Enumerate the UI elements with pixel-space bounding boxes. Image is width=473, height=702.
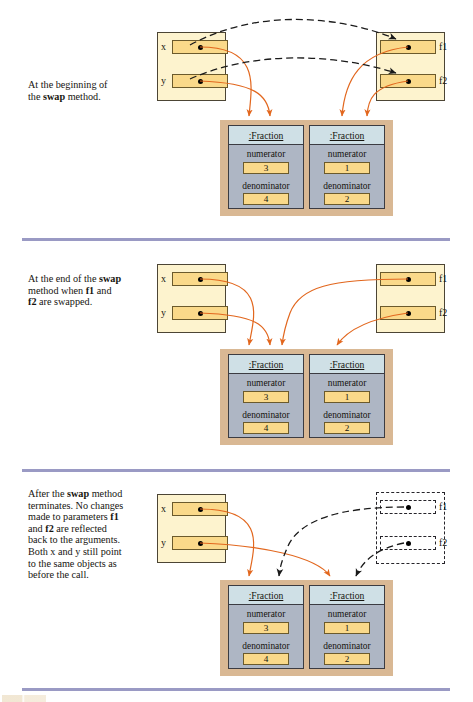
object-title: :Fraction xyxy=(229,126,303,145)
panel-after-swap-terminates: After the swap methodterminates. No chan… xyxy=(0,462,473,692)
panel-1-param-slot-f1 xyxy=(380,40,436,54)
reference-dot xyxy=(198,507,203,512)
reference-dot xyxy=(406,277,411,282)
field-value-denominator: 4 xyxy=(243,193,289,205)
panel-separator-3 xyxy=(22,688,450,691)
field-label-denominator: denominator xyxy=(229,177,303,192)
panel-3-fraction-object-a: :Fraction numerator 3 denominator 4 xyxy=(228,585,304,669)
field-value-denominator: 2 xyxy=(324,422,370,434)
field-value-denominator: 4 xyxy=(243,653,289,665)
panel-3-param-slot-f2 xyxy=(380,536,436,550)
panel-1-caption: At the beginning ofthe swap method. xyxy=(28,79,168,102)
panel-2-param-label-f1: f1 xyxy=(439,272,447,286)
panel-2-var-slot-x xyxy=(172,272,228,286)
panel-beginning-of-swap: At the beginning ofthe swap method. :Fra… xyxy=(0,0,473,230)
panel-2-param-slot-f1 xyxy=(380,272,436,286)
reference-dot xyxy=(198,277,203,282)
field-label-numerator: numerator xyxy=(310,605,384,620)
panel-2-fraction-object-a: :Fraction numerator 3 denominator 4 xyxy=(228,354,304,438)
panel-2-caption: At the end of the swapmethod when f1 and… xyxy=(28,273,168,308)
panel-2-fraction-object-b: :Fraction numerator 1 denominator 2 xyxy=(309,354,385,438)
panel-2-var-label-x: x xyxy=(161,272,166,286)
panel-end-of-swap: At the end of the swapmethod when f1 and… xyxy=(0,231,473,461)
reference-dot xyxy=(406,45,411,50)
field-label-denominator: denominator xyxy=(310,177,384,192)
field-label-denominator: denominator xyxy=(310,406,384,421)
field-label-denominator: denominator xyxy=(229,637,303,652)
reference-dot xyxy=(406,505,411,510)
field-value-numerator: 3 xyxy=(243,162,289,174)
panel-2-param-label-f2: f2 xyxy=(439,306,447,320)
field-value-denominator: 2 xyxy=(324,193,370,205)
field-value-denominator: 2 xyxy=(324,653,370,665)
panel-3-var-slot-y xyxy=(172,536,228,550)
field-value-numerator: 3 xyxy=(243,391,289,403)
panel-3-param-label-f1: f1 xyxy=(439,500,447,514)
panel-3-var-label-y: y xyxy=(161,536,166,550)
field-label-denominator: denominator xyxy=(229,406,303,421)
panel-3-param-slot-f1 xyxy=(380,500,436,514)
field-value-numerator: 1 xyxy=(324,162,370,174)
object-title: :Fraction xyxy=(310,126,384,145)
panel-3-var-label-x: x xyxy=(161,502,166,516)
field-value-numerator: 1 xyxy=(324,391,370,403)
panel-1-var-slot-x xyxy=(172,40,228,54)
reference-dot xyxy=(198,79,203,84)
panel-1-param-slot-f2 xyxy=(380,74,436,88)
field-label-numerator: numerator xyxy=(229,374,303,389)
reference-dot xyxy=(406,541,411,546)
panel-2-var-label-y: y xyxy=(161,306,166,320)
page-edge-artifact xyxy=(2,695,46,702)
panel-1-var-slot-y xyxy=(172,74,228,88)
panel-3-caption: After the swap methodterminates. No chan… xyxy=(28,488,168,581)
field-label-numerator: numerator xyxy=(229,605,303,620)
panel-1-var-label-y: y xyxy=(161,74,166,88)
reference-dot xyxy=(198,45,203,50)
panel-1-var-label-x: x xyxy=(161,40,166,54)
panel-3-var-slot-x xyxy=(172,502,228,516)
panel-1-param-label-f2: f2 xyxy=(439,74,447,88)
reference-dot xyxy=(406,311,411,316)
field-value-denominator: 4 xyxy=(243,422,289,434)
field-label-denominator: denominator xyxy=(310,637,384,652)
reference-dot xyxy=(406,79,411,84)
field-label-numerator: numerator xyxy=(310,145,384,160)
panel-3-fraction-object-b: :Fraction numerator 1 denominator 2 xyxy=(309,585,385,669)
panel-1-fraction-object-a: :Fraction numerator 3 denominator 4 xyxy=(228,125,304,209)
panel-1-fraction-object-b: :Fraction numerator 1 denominator 2 xyxy=(309,125,385,209)
panel-3-param-label-f2: f2 xyxy=(439,536,447,550)
object-title: :Fraction xyxy=(229,586,303,605)
reference-dot xyxy=(198,541,203,546)
field-label-numerator: numerator xyxy=(310,374,384,389)
panel-2-var-slot-y xyxy=(172,306,228,320)
field-value-numerator: 3 xyxy=(243,622,289,634)
object-title: :Fraction xyxy=(229,355,303,374)
field-label-numerator: numerator xyxy=(229,145,303,160)
object-title: :Fraction xyxy=(310,355,384,374)
field-value-numerator: 1 xyxy=(324,622,370,634)
panel-1-param-label-f1: f1 xyxy=(439,40,447,54)
panel-2-param-slot-f2 xyxy=(380,306,436,320)
reference-dot xyxy=(198,311,203,316)
object-title: :Fraction xyxy=(310,586,384,605)
